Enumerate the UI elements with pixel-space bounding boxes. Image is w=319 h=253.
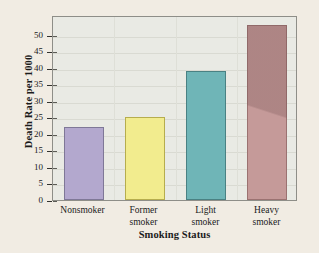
y-axis-tick-inner [53, 201, 57, 202]
y-axis-tick-inner [53, 151, 57, 152]
x-axis-tick-label: Formersmoker [113, 205, 174, 228]
bar-nonsmoker [64, 127, 104, 200]
y-axis-tick [47, 102, 52, 103]
x-axis-tick-label-line: smoker [113, 217, 174, 229]
y-axis-tick [47, 85, 52, 86]
x-axis-tick-label: Nonsmoker [52, 205, 113, 217]
y-axis-tick-inner [53, 168, 57, 169]
x-axis-tick-label-line: Nonsmoker [52, 205, 113, 217]
y-axis-tick-inner [53, 52, 57, 53]
y-axis-tick-label: 10 [17, 162, 43, 172]
bar-light-smoker [186, 71, 226, 200]
x-axis-tick-label-line: Heavy [236, 205, 297, 217]
y-axis-tick-inner [53, 85, 57, 86]
y-axis-tick [47, 184, 52, 185]
plot-area [52, 16, 297, 201]
y-axis-tick-label: 45 [17, 46, 43, 56]
gridline-vertical [114, 17, 115, 200]
x-axis-tick-label-line: smoker [236, 217, 297, 229]
x-axis-tick-label-line: Former [113, 205, 174, 217]
x-axis-tick-label-line: smoker [175, 217, 236, 229]
bar-fill [186, 71, 226, 200]
y-axis-tick-label: 50 [17, 30, 43, 40]
bar-chart-figure: Death Rate per 1000 05101520253035404550… [0, 0, 319, 253]
x-axis-tick-label: Heavysmoker [236, 205, 297, 228]
y-axis-tick [47, 135, 52, 136]
y-axis-tick-inner [53, 118, 57, 119]
bar-fill [247, 25, 287, 200]
bar-fill [64, 127, 104, 200]
y-axis-tick-label: 0 [17, 195, 43, 205]
y-axis-tick [47, 69, 52, 70]
y-axis-tick [47, 36, 52, 37]
y-axis-tick [47, 118, 52, 119]
x-axis-tick-label-line: Light [175, 205, 236, 217]
y-axis-tick [47, 168, 52, 169]
y-axis-tick [47, 52, 52, 53]
y-axis-tick-inner [53, 135, 57, 136]
y-axis-tick-inner [53, 69, 57, 70]
y-axis-tick-label: 25 [17, 112, 43, 122]
y-axis-tick-label: 20 [17, 129, 43, 139]
bar-former-smoker [125, 117, 165, 200]
y-axis-tick-label: 15 [17, 145, 43, 155]
gridline-vertical [237, 17, 238, 200]
y-axis-tick-inner [53, 184, 57, 185]
x-axis-tick-label: Lightsmoker [175, 205, 236, 228]
y-axis-tick-label: 5 [17, 178, 43, 188]
y-axis-tick [47, 151, 52, 152]
bar-fill [125, 117, 165, 200]
bar-heavy-smoker [247, 25, 287, 200]
y-axis-tick-inner [53, 36, 57, 37]
y-axis-tick-label: 30 [17, 96, 43, 106]
y-axis-tick-label: 40 [17, 63, 43, 73]
y-axis-tick [47, 201, 52, 202]
y-axis-tick-label: 35 [17, 79, 43, 89]
gridline-vertical [176, 17, 177, 200]
y-axis-tick-inner [53, 102, 57, 103]
x-axis-title: Smoking Status [52, 229, 297, 240]
